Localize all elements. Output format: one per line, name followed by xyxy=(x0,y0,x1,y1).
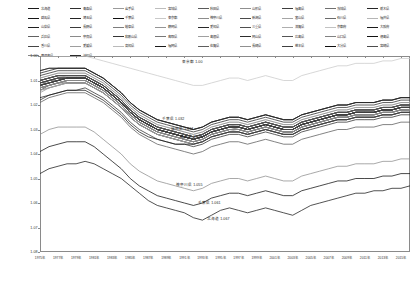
legend-label: 東京都 xyxy=(168,16,177,20)
legend-item[interactable]: 高知県 xyxy=(113,42,155,51)
legend-swatch-icon xyxy=(367,18,378,19)
legend-item[interactable]: 大分県 xyxy=(325,42,367,51)
series-line xyxy=(40,127,410,191)
series-line xyxy=(40,81,410,142)
annotation-label: 東京都 1.00 xyxy=(182,58,202,63)
legend-item[interactable]: 和歌山県 xyxy=(113,32,155,41)
series-line xyxy=(40,81,410,142)
legend-item[interactable]: 石川県 xyxy=(325,13,367,22)
legend-item[interactable]: 長崎県 xyxy=(240,42,282,51)
y-tick-label: 1.02 xyxy=(30,103,37,107)
y-tick-label: 1.08 xyxy=(30,250,37,254)
legend-label: 神奈川県 xyxy=(210,16,222,20)
legend-item[interactable]: 茨城県 xyxy=(325,4,367,13)
legend-label: 宮城県 xyxy=(168,7,177,11)
legend-item[interactable]: 福島県 xyxy=(282,4,324,13)
x-tick-label: 1991年 xyxy=(179,255,189,260)
x-tick-label: 1999年 xyxy=(251,255,261,260)
legend-item[interactable]: 愛知県 xyxy=(198,23,240,32)
series-line xyxy=(40,78,410,139)
x-tick-mark xyxy=(383,56,384,58)
legend-label: 三重県 xyxy=(252,25,261,29)
y-tick-mark xyxy=(38,203,40,204)
legend-label: 青森県 xyxy=(83,7,92,11)
legend-swatch-icon xyxy=(28,27,39,28)
legend-item[interactable]: 大阪府 xyxy=(367,23,409,32)
legend-swatch-icon xyxy=(155,46,166,47)
series-line xyxy=(40,78,410,139)
legend-item[interactable]: 神奈川県 xyxy=(198,13,240,22)
series-line xyxy=(40,161,410,220)
legend-label: 静岡県 xyxy=(168,25,177,29)
y-tick-mark xyxy=(38,130,40,131)
legend-item[interactable]: 奈良県 xyxy=(70,32,112,41)
legend-swatch-icon xyxy=(28,46,39,47)
legend-item[interactable]: 香川県 xyxy=(28,42,70,51)
x-tick-label: 1981年 xyxy=(89,255,99,260)
legend-swatch-icon xyxy=(367,27,378,28)
legend-item[interactable]: 富山県 xyxy=(282,13,324,22)
legend-item[interactable]: 岡山県 xyxy=(240,32,282,41)
legend-item[interactable]: 東京都 xyxy=(155,13,197,22)
legend-item[interactable]: 宮城県 xyxy=(155,4,197,13)
legend-label: 奈良県 xyxy=(83,35,92,39)
series-line xyxy=(40,78,410,139)
legend-item[interactable]: 福井県 xyxy=(367,13,409,22)
legend-item[interactable]: 群馬県 xyxy=(28,13,70,22)
legend-item[interactable]: 山形県 xyxy=(240,4,282,13)
series-line xyxy=(40,78,410,139)
legend-item[interactable]: 静岡県 xyxy=(155,23,197,32)
legend-swatch-icon xyxy=(325,18,336,19)
legend-item[interactable]: 秋田県 xyxy=(198,4,240,13)
legend-item[interactable]: 三重県 xyxy=(240,23,282,32)
annotation-label: 福岡県 1.034 xyxy=(171,126,193,131)
legend-label: 熊本県 xyxy=(295,44,304,48)
legend-item[interactable]: 佐賀県 xyxy=(198,42,240,51)
y-tick-mark xyxy=(38,179,40,180)
legend-item[interactable]: 新潟県 xyxy=(240,13,282,22)
legend-item[interactable]: 埼玉県 xyxy=(70,13,112,22)
x-tick-mark xyxy=(239,56,240,58)
x-tick-label: 1987年 xyxy=(143,255,153,260)
legend-swatch-icon xyxy=(325,27,336,28)
legend-item[interactable]: 島根県 xyxy=(198,32,240,41)
legend-item[interactable]: 兵庫県 xyxy=(28,32,70,41)
x-tick-mark xyxy=(275,56,276,58)
legend-item[interactable]: 山口県 xyxy=(325,32,367,41)
legend-item[interactable]: 青森県 xyxy=(70,4,112,13)
legend-item[interactable]: 熊本県 xyxy=(282,42,324,51)
annotation-label: 千葉県 1.061 xyxy=(198,199,220,204)
x-tick-label: 2009年 xyxy=(342,255,352,260)
legend-item[interactable]: 滋賀県 xyxy=(282,23,324,32)
legend-swatch-icon xyxy=(367,46,378,47)
legend-item[interactable]: 山梨県 xyxy=(28,23,70,32)
x-tick-label: 1977年 xyxy=(53,255,63,260)
annotation-label: 青森県 1.035 xyxy=(180,133,202,138)
legend-item[interactable]: 広島県 xyxy=(282,32,324,41)
legend-label: 山口県 xyxy=(337,35,346,39)
legend-swatch-icon xyxy=(198,18,209,19)
legend-label: 石川県 xyxy=(337,16,346,20)
legend-item[interactable]: 千葉県 xyxy=(113,13,155,22)
legend-item[interactable]: 岩手県 xyxy=(113,4,155,13)
x-tick-mark xyxy=(365,56,366,58)
series-line xyxy=(40,83,410,144)
x-tick-label: 1979年 xyxy=(71,255,81,260)
legend-label: 茨城県 xyxy=(337,7,346,11)
legend-item[interactable]: 宮崎県 xyxy=(367,42,409,51)
legend-swatch-icon xyxy=(282,27,293,28)
legend-label: 岩手県 xyxy=(125,7,134,11)
legend-item[interactable]: 北海道 xyxy=(28,4,70,13)
series-line xyxy=(40,78,410,139)
x-tick-label: 2001年 xyxy=(269,255,279,260)
legend-item[interactable]: 栃木県 xyxy=(367,4,409,13)
series-line xyxy=(40,83,410,144)
legend-item[interactable]: 長野県 xyxy=(70,23,112,32)
legend-item[interactable]: 福岡県 xyxy=(155,42,197,51)
legend-item[interactable]: 京都府 xyxy=(325,23,367,32)
legend-label: 香川県 xyxy=(41,44,50,48)
legend-item[interactable]: 鳥取県 xyxy=(155,32,197,41)
legend-item[interactable]: 岐阜県 xyxy=(113,23,155,32)
legend-item[interactable]: 徳島県 xyxy=(367,32,409,41)
legend-item[interactable]: 愛媛県 xyxy=(70,42,112,51)
